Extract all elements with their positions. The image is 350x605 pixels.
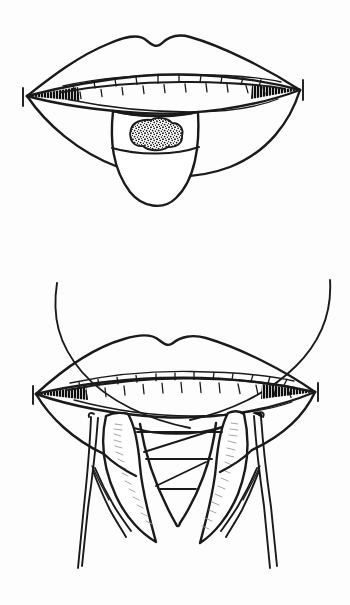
illustration-canvas bbox=[0, 0, 350, 605]
illustration-page bbox=[0, 0, 350, 605]
